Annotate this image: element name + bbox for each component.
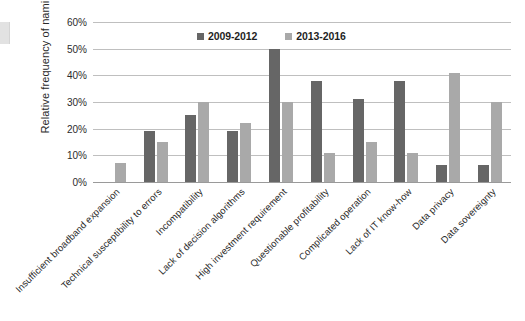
y-axis-tick-label: 0% [73,177,87,188]
bar[interactable] [198,102,209,182]
bar-group [218,22,260,182]
plot-area: 60%50%40%30%20%10%0% 2009-20122013-2016 [93,22,511,182]
bar-group [302,22,344,182]
bar-group [93,22,135,182]
bar[interactable] [394,81,405,182]
bar[interactable] [478,165,489,182]
bar-group [386,22,428,182]
bar[interactable] [115,163,126,182]
y-axis-tick-label: 10% [67,150,87,161]
bar-group [469,22,511,182]
y-axis-tick-label: 60% [67,17,87,28]
y-axis-title: Relative frequency of namings [39,0,51,153]
y-axis-tick-label: 50% [67,43,87,54]
bar-group [344,22,386,182]
bar[interactable] [324,153,335,182]
bar[interactable] [157,142,168,182]
bar-group [260,22,302,182]
bar[interactable] [282,102,293,182]
bar-group [135,22,177,182]
bar[interactable] [311,81,322,182]
bar[interactable] [240,123,251,182]
bar[interactable] [449,73,460,182]
x-axis-label-cell: Data privacy [427,182,469,321]
bar[interactable] [144,131,155,182]
bar[interactable] [269,49,280,182]
bar-groups [93,22,511,182]
x-axis-label-cell: Lack of IT know-how [386,182,428,321]
x-axis-label-cell: Technical susceptibility to errors [135,182,177,321]
y-axis-tick-label: 30% [67,97,87,108]
y-axis-tick-label: 20% [67,123,87,134]
x-axis-labels: Insufficient broadband expansionTechnica… [93,182,511,321]
edge-artifact [0,22,10,44]
bar[interactable] [491,102,502,182]
y-axis-tick-label: 40% [67,70,87,81]
bar-group [177,22,219,182]
bar[interactable] [353,99,364,182]
bar[interactable] [366,142,377,182]
bar[interactable] [436,165,447,182]
bar[interactable] [407,153,418,182]
bar-chart-figure: Relative frequency of namings 60%50%40%3… [0,0,525,321]
x-axis-label-cell: Data sovereignty [469,182,511,321]
bar[interactable] [185,115,196,182]
bar-group [427,22,469,182]
bar[interactable] [227,131,238,182]
